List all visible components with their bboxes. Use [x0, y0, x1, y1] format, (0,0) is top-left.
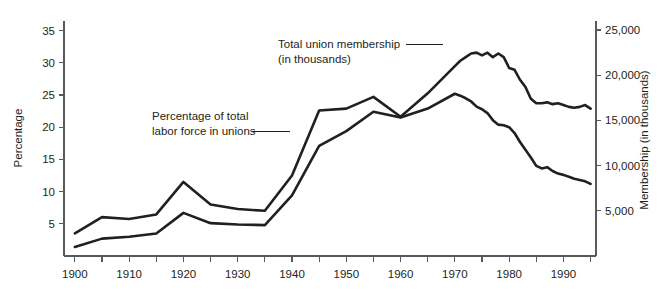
x-tick-label: 1900	[62, 268, 88, 280]
left-axis-ticks: 5101520253035	[42, 25, 64, 230]
left-tick-label: 35	[42, 25, 55, 37]
left-tick-label: 10	[42, 186, 55, 198]
right-axis-ticks: 5,00010,00015,00020,00025,000	[596, 24, 640, 217]
x-tick-label: 1980	[496, 268, 522, 280]
left-tick-label: 30	[42, 57, 55, 69]
right-tick-label: 25,000	[605, 24, 640, 36]
x-tick-label: 1930	[225, 268, 251, 280]
union-membership-chart: 5101520253035 5,00010,00015,00020,00025,…	[0, 0, 663, 290]
series-lines	[75, 53, 591, 247]
membership-annotation-line1: Total union membership	[278, 38, 400, 50]
left-tick-label: 5	[49, 218, 55, 230]
membership-annotation: Total union membership (in thousands)	[278, 38, 443, 65]
x-axis-ticks: 1900191019201930194019501960197019801990	[62, 256, 591, 280]
right-axis-title: Membership (in thousands)	[638, 70, 650, 210]
x-tick-label: 1920	[171, 268, 197, 280]
left-axis-title: Percentage	[12, 109, 24, 168]
chart-canvas: 5101520253035 5,00010,00015,00020,00025,…	[0, 0, 663, 290]
x-tick-label: 1940	[279, 268, 305, 280]
x-tick-label: 1970	[442, 268, 468, 280]
percentage-annotation-line1: Percentage of total	[152, 110, 249, 122]
membership-annotation-line2: (in thousands)	[278, 53, 351, 65]
right-tick-label: 15,000	[605, 114, 640, 126]
percentage-annotation-line2: labor force in unions	[152, 125, 256, 137]
x-tick-label: 1950	[333, 268, 359, 280]
x-tick-label: 1990	[551, 268, 577, 280]
right-tick-label: 5,000	[605, 205, 634, 217]
right-tick-label: 20,000	[605, 69, 640, 81]
left-tick-label: 20	[42, 121, 55, 133]
series-line-total-union-membership	[75, 53, 591, 234]
left-tick-label: 25	[42, 89, 55, 101]
right-tick-label: 10,000	[605, 160, 640, 172]
left-tick-label: 15	[42, 153, 55, 165]
x-tick-label: 1960	[388, 268, 414, 280]
percentage-annotation: Percentage of total labor force in union…	[152, 110, 290, 137]
x-tick-label: 1910	[116, 268, 142, 280]
